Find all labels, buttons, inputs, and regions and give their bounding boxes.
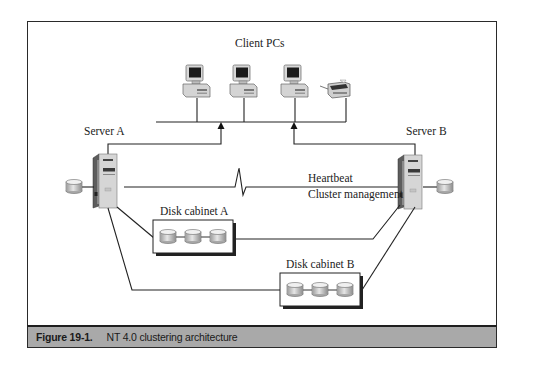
disk-icon	[312, 283, 328, 297]
disk-cabinet-a	[153, 220, 236, 256]
disk-icon	[185, 230, 201, 244]
server-b-uplink	[294, 128, 415, 155]
figure-caption: Figure 19-1. NT 4.0 clustering architect…	[27, 325, 497, 348]
cluster-management-label: Cluster management	[308, 188, 403, 200]
client-pcs-label: Client PCs	[235, 37, 285, 49]
arrow-up-icon	[218, 122, 225, 129]
client-pc-icon	[183, 65, 210, 97]
client-network-bus	[156, 98, 346, 122]
disk-icon	[287, 283, 303, 297]
client-pc-icon	[281, 65, 308, 97]
server-a-label: Server A	[84, 125, 125, 137]
disk-icon	[210, 230, 226, 244]
figure-number: Figure 19-1.	[36, 331, 93, 343]
server-b-local-disk-icon	[437, 180, 453, 194]
disk-icon	[160, 230, 176, 244]
disk-cabinet-b	[280, 273, 363, 309]
server-a-icon	[93, 154, 117, 208]
disk-cabinet-a-label: Disk cabinet A	[160, 205, 228, 217]
figure-caption-text: NT 4.0 clustering architecture	[107, 331, 238, 343]
heartbeat-label: Heartbeat	[308, 172, 353, 184]
disk-cabinet-b-label: Disk cabinet B	[286, 258, 354, 270]
server-b-label: Server B	[406, 125, 447, 137]
printer-icon	[320, 80, 350, 98]
client-pc-icon	[230, 65, 257, 97]
server-a-local-disk-icon	[66, 180, 82, 194]
arrow-up-icon	[291, 122, 298, 129]
server-b-icon	[398, 155, 422, 209]
disk-icon	[337, 283, 353, 297]
